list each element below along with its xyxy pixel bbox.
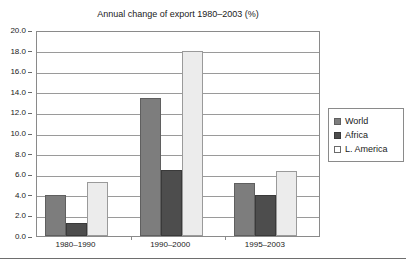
legend-label: World [345, 116, 368, 126]
y-tick-mark [28, 51, 32, 52]
bar-l-america-1990–2000 [182, 51, 203, 236]
x-axis: 1980–19901990–20001995–2003 [36, 240, 320, 254]
y-tick-mark [28, 237, 32, 238]
bar-africa-1990–2000 [161, 170, 182, 236]
gridline [37, 52, 319, 53]
legend-swatch-icon [334, 132, 341, 139]
legend-label: L. America [345, 144, 388, 154]
y-tick-mark [28, 31, 32, 32]
x-tick-label: 1980–1990 [36, 240, 116, 250]
y-tick-label: 8.0 [15, 151, 26, 159]
y-tick-label: 16.0 [10, 68, 26, 76]
bar-africa-1995–2003 [255, 195, 276, 236]
chart-title: Annual change of export 1980–2003 (%) [36, 8, 320, 20]
y-axis: 0.02.04.06.08.010.012.014.016.018.020.0 [0, 31, 32, 237]
y-tick-label: 10.0 [10, 130, 26, 138]
legend-swatch-icon [334, 146, 341, 153]
y-tick-label: 20.0 [10, 27, 26, 35]
plot-area [36, 31, 320, 237]
gridline [37, 114, 319, 115]
x-tick-label: 1990–2000 [130, 240, 210, 250]
bottom-divider [0, 258, 406, 259]
y-tick-label: 2.0 [15, 212, 26, 220]
y-tick-label: 14.0 [10, 89, 26, 97]
y-tick-mark [28, 113, 32, 114]
bar-l-america-1995–2003 [276, 171, 297, 236]
bar-africa-1980–1990 [66, 223, 87, 236]
legend-item: Africa [334, 128, 399, 142]
gridline [37, 155, 319, 156]
y-tick-mark [28, 72, 32, 73]
y-tick-mark [28, 216, 32, 217]
y-tick-mark [28, 92, 32, 93]
y-tick-mark [28, 154, 32, 155]
y-tick-label: 6.0 [15, 171, 26, 179]
legend-label: Africa [345, 130, 368, 140]
gridline [37, 93, 319, 94]
y-tick-label: 12.0 [10, 109, 26, 117]
gridline [37, 73, 319, 74]
y-tick-mark [28, 134, 32, 135]
legend-item: World [334, 114, 399, 128]
x-tick-label: 1995–2003 [225, 240, 305, 250]
y-tick-mark [28, 175, 32, 176]
chart-figure: Annual change of export 1980–2003 (%) 0.… [0, 0, 406, 270]
bar-world-1995–2003 [234, 183, 255, 236]
y-tick-mark [28, 195, 32, 196]
gridline [37, 135, 319, 136]
y-tick-label: 18.0 [10, 48, 26, 56]
legend-swatch-icon [334, 118, 341, 125]
legend-item: L. America [334, 142, 399, 156]
bar-world-1990–2000 [140, 98, 161, 236]
bar-world-1980–1990 [45, 195, 66, 236]
bar-l-america-1980–1990 [87, 182, 108, 236]
y-tick-label: 0.0 [15, 233, 26, 241]
chart-legend: WorldAfricaL. America [328, 108, 404, 162]
y-tick-label: 4.0 [15, 192, 26, 200]
